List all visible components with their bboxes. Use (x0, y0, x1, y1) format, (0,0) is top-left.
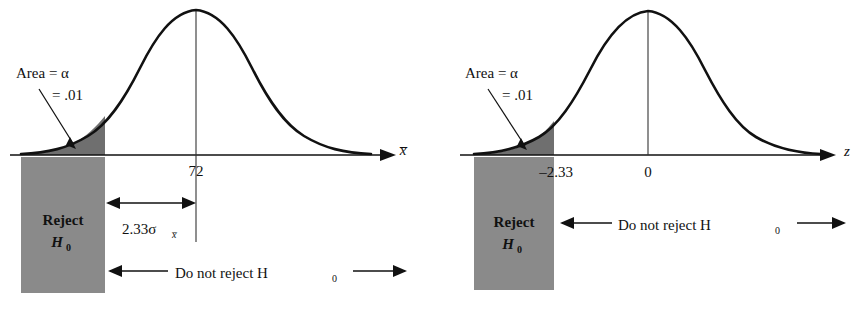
axis-label-right: z (843, 143, 850, 159)
sigma-measure-arrow-right-head (182, 197, 196, 209)
alpha-label-line2-left: = .01 (52, 87, 83, 103)
z-axis-arrowhead-right (820, 149, 836, 161)
mean-tick-label-right: 0 (644, 164, 652, 180)
accept-region-arrow-left-head (108, 265, 122, 277)
reject-label-sub-right: 0 (517, 244, 522, 255)
axis-label-left: x̅ (399, 142, 408, 158)
reject-label-line2-right: H (501, 236, 515, 252)
accept-region-label-sub-right: 0 (775, 225, 780, 236)
panel-sampling-distribution: x̅ 72 Area = α = .01 Reject H 0 2.33σ x̅… (0, 0, 432, 310)
reject-label-line2-left: H (50, 234, 64, 250)
panel-standard-normal: z –2.33 0 Area = α = .01 Reject H 0 Do n… (432, 0, 864, 310)
alpha-tail-shading-right (474, 121, 554, 155)
reject-label-sub-left: 0 (66, 242, 71, 253)
accept-region-label-right: Do not reject H (618, 217, 711, 233)
accept-region-label-left: Do not reject H (175, 265, 268, 281)
x-axis-arrowhead-left (380, 149, 396, 161)
accept-region-label-sub-left: 0 (332, 273, 337, 284)
accept-region-arrow-right-head (832, 217, 846, 229)
sigma-distance-label-sub-left: x̅ (171, 229, 178, 240)
alpha-label-line1-right: Area = α (465, 65, 518, 81)
reject-label-line1-left: Reject (43, 212, 84, 228)
alpha-label-line2-right: = .01 (502, 87, 533, 103)
critical-value-label-right: –2.33 (538, 164, 573, 180)
reject-label-line1-right: Reject (494, 214, 535, 230)
accept-region-arrow-left-head (560, 217, 574, 229)
statistics-figure: x̅ 72 Area = α = .01 Reject H 0 2.33σ x̅… (0, 0, 864, 310)
mean-tick-label-left: 72 (189, 163, 204, 179)
alpha-tail-shading-left (21, 116, 105, 155)
sigma-distance-label-left: 2.33σ (122, 221, 156, 237)
accept-region-arrow-right-head (393, 265, 407, 277)
alpha-label-line1-left: Area = α (16, 65, 69, 81)
sigma-measure-arrow-left-head (106, 197, 120, 209)
